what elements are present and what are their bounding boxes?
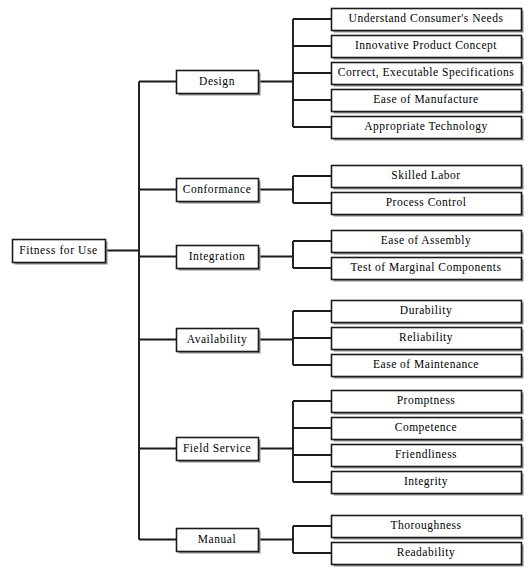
leaf-node-competence-label: Competence	[395, 421, 457, 434]
branch-node-availability-label: Availability	[187, 333, 248, 346]
leaf-node-readability-label: Readability	[397, 546, 456, 559]
leaf-node-skilled-labor-label: Skilled Labor	[391, 169, 460, 181]
leaf-node-friendliness[interactable]: Friendliness	[332, 445, 524, 469]
root-node-fitness-for-use[interactable]: Fitness for Use	[13, 240, 108, 265]
leaf-node-readability[interactable]: Readability	[332, 543, 524, 567]
leaf-node-test-of-marginal-components[interactable]: Test of Marginal Components	[332, 258, 524, 282]
branch-node-manual[interactable]: Manual	[177, 529, 261, 554]
leaf-node-ease-of-assembly[interactable]: Ease of Assembly	[332, 231, 524, 255]
leaf-node-ease-of-manufacture-label: Ease of Manufacture	[373, 93, 478, 105]
node-layer: Understand Consumer's NeedsInnovative Pr…	[13, 9, 524, 567]
branch-node-conformance[interactable]: Conformance	[177, 179, 261, 204]
leaf-node-ease-of-maintenance-label: Ease of Maintenance	[373, 358, 479, 370]
branch-node-field-service-label: Field Service	[183, 442, 251, 454]
leaf-node-correct-executable-specifications-label: Correct, Executable Specifications	[338, 66, 514, 79]
leaf-node-competence[interactable]: Competence	[332, 418, 524, 442]
leaf-node-thoroughness-label: Thoroughness	[390, 519, 461, 532]
leaf-node-promptness-label: Promptness	[397, 394, 456, 407]
branch-node-conformance-label: Conformance	[183, 183, 252, 195]
leaf-node-understand-consumer-s-needs[interactable]: Understand Consumer's Needs	[332, 9, 524, 33]
leaf-node-integrity-label: Integrity	[404, 475, 448, 488]
leaf-node-thoroughness[interactable]: Thoroughness	[332, 516, 524, 540]
leaf-node-understand-consumer-s-needs-label: Understand Consumer's Needs	[349, 12, 504, 24]
leaf-node-innovative-product-concept-label: Innovative Product Concept	[355, 39, 497, 52]
branch-node-design-label: Design	[199, 75, 235, 88]
tree-diagram-canvas: Understand Consumer's NeedsInnovative Pr…	[0, 0, 531, 569]
leaf-node-ease-of-maintenance[interactable]: Ease of Maintenance	[332, 355, 524, 379]
branch-node-integration-label: Integration	[189, 250, 246, 263]
leaf-node-friendliness-label: Friendliness	[395, 448, 457, 460]
connector-layer	[105, 19, 331, 553]
branch-node-manual-label: Manual	[198, 533, 236, 545]
root-node-fitness-for-use-label: Fitness for Use	[19, 244, 98, 256]
leaf-node-appropriate-technology-label: Appropriate Technology	[364, 120, 487, 133]
tree-diagram-svg: Understand Consumer's NeedsInnovative Pr…	[0, 0, 531, 569]
branch-node-design[interactable]: Design	[177, 71, 261, 96]
leaf-node-appropriate-technology[interactable]: Appropriate Technology	[332, 117, 524, 141]
leaf-node-ease-of-manufacture[interactable]: Ease of Manufacture	[332, 90, 524, 114]
branch-node-availability[interactable]: Availability	[177, 329, 261, 354]
leaf-node-durability[interactable]: Durability	[332, 301, 524, 325]
branch-node-field-service[interactable]: Field Service	[177, 438, 261, 463]
leaf-node-reliability[interactable]: Reliability	[332, 328, 524, 352]
leaf-node-durability-label: Durability	[400, 304, 452, 317]
leaf-node-promptness[interactable]: Promptness	[332, 391, 524, 415]
leaf-node-innovative-product-concept[interactable]: Innovative Product Concept	[332, 36, 524, 60]
leaf-node-correct-executable-specifications[interactable]: Correct, Executable Specifications	[332, 63, 524, 87]
leaf-node-process-control[interactable]: Process Control	[332, 193, 524, 217]
leaf-node-reliability-label: Reliability	[399, 331, 453, 344]
leaf-node-ease-of-assembly-label: Ease of Assembly	[381, 234, 471, 247]
leaf-node-integrity[interactable]: Integrity	[332, 472, 524, 496]
leaf-node-test-of-marginal-components-label: Test of Marginal Components	[351, 261, 502, 274]
leaf-node-process-control-label: Process Control	[386, 196, 467, 208]
leaf-node-skilled-labor[interactable]: Skilled Labor	[332, 166, 524, 190]
branch-node-integration[interactable]: Integration	[177, 246, 261, 271]
